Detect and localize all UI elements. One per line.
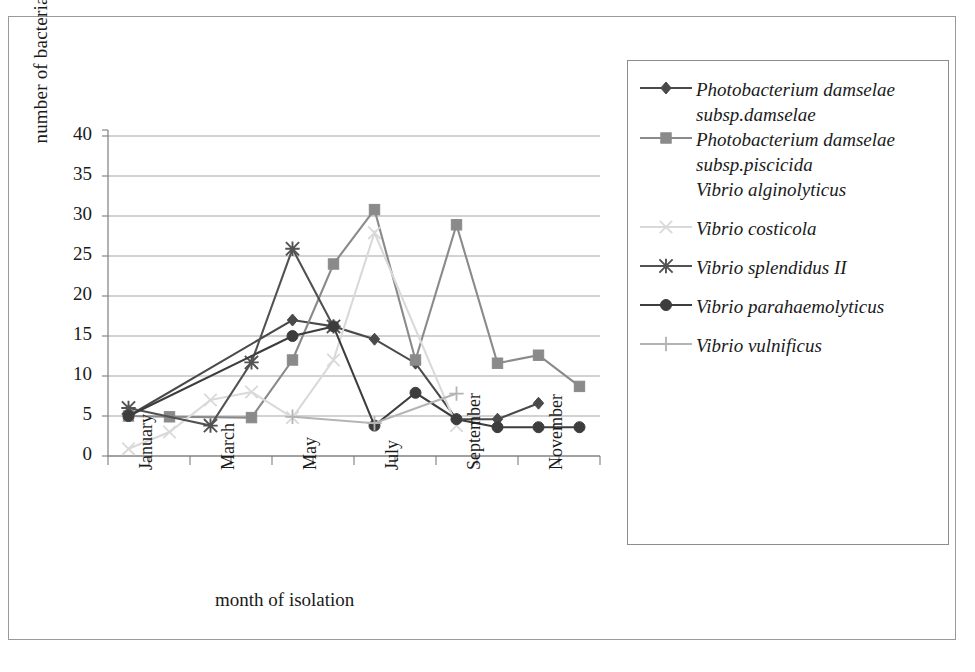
- legend-label: Photobacterium damselae: [696, 127, 895, 152]
- legend-item[interactable]: Vibrio costicola: [638, 216, 938, 241]
- cross-marker-icon: [638, 216, 696, 238]
- x-tick-label: September: [464, 393, 485, 470]
- legend-spacer: [638, 241, 938, 255]
- y-tick-label: 25: [52, 243, 92, 265]
- chart-legend: Photobacterium damselaesubsp.damselaePho…: [627, 60, 949, 545]
- legend-item[interactable]: Vibrio splendidus II: [638, 255, 938, 280]
- x-axis-title: month of isolation: [215, 589, 354, 611]
- legend-spacer: [638, 280, 938, 294]
- x-tick-label: May: [300, 437, 321, 470]
- plus-marker-icon: [638, 333, 696, 355]
- y-tick-label: 30: [52, 203, 92, 225]
- x-tick-label: November: [546, 394, 567, 470]
- x-tick-label: July: [382, 440, 403, 470]
- legend-spacer: [638, 202, 938, 216]
- chart-plot-area: number of bacteria month of isolation 05…: [0, 0, 640, 622]
- y-tick-label: 0: [52, 443, 92, 465]
- legend-label: Vibrio splendidus II: [696, 255, 847, 280]
- legend-label: Vibrio costicola: [696, 216, 817, 241]
- x-tick-label: March: [218, 423, 239, 470]
- y-tick-label: 40: [52, 123, 92, 145]
- series-1: [123, 204, 584, 422]
- y-tick-label: 20: [52, 283, 92, 305]
- diamond-marker-icon: [638, 77, 696, 99]
- legend-spacer: [638, 319, 938, 333]
- y-tick-label: 10: [52, 363, 92, 385]
- line-chart-svg: [0, 0, 640, 622]
- y-tick-label: 15: [52, 323, 92, 345]
- legend-label: Photobacterium damselae: [696, 77, 895, 102]
- square-marker-icon: [638, 127, 696, 149]
- legend-entries: Photobacterium damselaesubsp.damselaePho…: [638, 77, 938, 358]
- legend-label: Vibrio vulnificus: [696, 333, 822, 358]
- y-tick-label: 35: [52, 163, 92, 185]
- y-axis-title: number of bacteria: [30, 0, 52, 170]
- legend-label-cont: subsp.piscicida: [696, 152, 938, 177]
- asterisk-marker-icon: [638, 255, 696, 277]
- legend-label: Vibrio parahaemolyticus: [696, 294, 884, 319]
- legend-label-extra: Vibrio alginolyticus: [696, 177, 938, 202]
- legend-label-cont: subsp.damselae: [696, 102, 938, 127]
- legend-item[interactable]: Vibrio parahaemolyticus: [638, 294, 938, 319]
- y-tick-label: 5: [52, 403, 92, 425]
- circle-marker-icon: [638, 294, 696, 316]
- series-line: [129, 210, 580, 418]
- legend-item[interactable]: Photobacterium damselae: [638, 127, 938, 152]
- x-tick-label: January: [136, 414, 157, 470]
- figure-root: number of bacteria month of isolation 05…: [0, 0, 975, 672]
- legend-item[interactable]: Photobacterium damselae: [638, 77, 938, 102]
- legend-item[interactable]: Vibrio vulnificus: [638, 333, 938, 358]
